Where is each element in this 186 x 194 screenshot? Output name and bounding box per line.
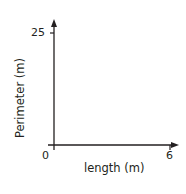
x-axis-arrow-icon <box>171 142 179 148</box>
origin-label: 0 <box>42 150 49 162</box>
y-axis-title: Perimeter (m) <box>13 58 27 138</box>
y-axis-arrow-icon <box>51 19 57 27</box>
perimeter-vs-length-chart: 25 0 6 length (m) Perimeter (m) <box>0 0 186 194</box>
y-tick-label-25: 25 <box>31 27 45 39</box>
x-axis-title: length (m) <box>84 161 145 175</box>
x-tick-label-6: 6 <box>166 150 173 162</box>
